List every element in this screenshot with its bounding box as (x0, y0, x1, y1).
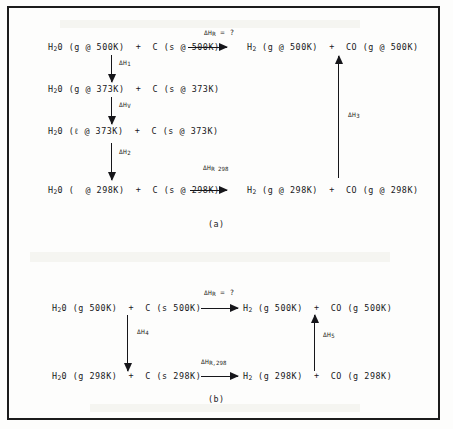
caption-b: (b) (208, 394, 225, 404)
arrow-head-icon (108, 74, 116, 83)
equation-b-row2-reactants: H20 (g 298K) + C (s 298K) (52, 371, 201, 382)
delta-subscript: 2 (127, 150, 130, 156)
arrow-shaft (314, 315, 315, 371)
formula-rest: (g @ 298K) + CO (g @ 298K) (256, 185, 418, 195)
delta-h-r298-label-a: ΔHR 298 (203, 163, 228, 172)
delta-subscript: 1 (127, 61, 130, 67)
delta-symbol: ΔH (348, 111, 356, 118)
arrow-head-icon (219, 43, 228, 51)
arrow-head-icon (108, 116, 116, 125)
arrow-head-icon (230, 372, 239, 380)
formula-rest: (g 298K) + CO (g 298K) (252, 371, 392, 381)
delta-h1-label: ΔH1 (119, 58, 131, 67)
delta-h2-label: ΔH2 (119, 147, 131, 156)
delta-subscript: R,298 (209, 360, 226, 366)
equation-a-row2-reactants: H20 (g @ 373K) + C (s @ 373K) (48, 84, 220, 95)
formula-rest: 0 (g @ 373K) + C (s @ 373K) (57, 84, 219, 94)
delta-hv-label: ΔHV (119, 100, 131, 109)
delta-symbol: ΔH (204, 29, 212, 36)
delta-subscript: V (127, 103, 130, 109)
delta-symbol: ΔH (137, 328, 145, 335)
delta-h-r298-label-b: ΔHR,298 (201, 357, 226, 366)
arrow-head-icon (219, 186, 228, 194)
equation-a-row1-products: H2 (g @ 500K) + CO (g @ 500K) (247, 42, 419, 53)
equation-b-row1-products: H2 (g 500K) + CO (g 500K) (243, 303, 392, 314)
delta-symbol: ΔH (203, 164, 211, 171)
formula-rest: 0 (g 298K) + C (s 298K) (61, 371, 201, 381)
delta-h-r-label-a: ΔHR = ? (204, 28, 234, 37)
delta-subscript: 5 (331, 333, 334, 339)
formula-rest: (g 500K) + CO (g 500K) (252, 303, 392, 313)
equation-a-row3-reactants: H20 (ℓ @ 373K) + C (s @ 373K) (48, 126, 219, 137)
delta-symbol: ΔH (119, 101, 127, 108)
arrow-shaft (338, 56, 339, 178)
delta-symbol: ΔH (204, 289, 212, 296)
arrow-head-icon (311, 314, 319, 323)
arrow-head-icon (108, 172, 116, 181)
delta-subscript: R 298 (211, 166, 228, 172)
delta-h3-label: ΔH3 (348, 110, 360, 119)
delta-h4-label: ΔH4 (137, 327, 149, 336)
delta-symbol: ΔH (201, 358, 209, 365)
delta-tail: = ? (216, 28, 235, 37)
formula-rest: 0 (g 500K) + C (s 500K) (61, 303, 201, 313)
delta-symbol: ΔH (119, 148, 127, 155)
equation-b-row1-reactants: H20 (g 500K) + C (s 500K) (52, 303, 201, 314)
delta-symbol: ΔH (323, 331, 331, 338)
equation-a-row4-products: H2 (g @ 298K) + CO (g @ 298K) (247, 185, 419, 196)
arrow-head-icon (230, 304, 239, 312)
delta-h-r-label-b: ΔHR = ? (204, 288, 234, 297)
equation-b-row2-products: H2 (g 298K) + CO (g 298K) (243, 371, 392, 382)
figure-container: ΔHR = ? H20 (g @ 500K) + C (s @ 500K) H2… (0, 0, 453, 429)
arrow-head-icon (335, 55, 343, 64)
delta-subscript: 4 (145, 330, 148, 336)
delta-tail: = ? (216, 288, 235, 297)
formula-rest: (g @ 500K) + CO (g @ 500K) (256, 42, 418, 52)
delta-h5-label: ΔH5 (323, 330, 335, 339)
delta-subscript: 3 (356, 113, 359, 119)
caption-a: (a) (208, 219, 225, 229)
delta-symbol: ΔH (119, 59, 127, 66)
formula-rest: 0 (ℓ @ 373K) + C (s @ 373K) (57, 126, 218, 136)
